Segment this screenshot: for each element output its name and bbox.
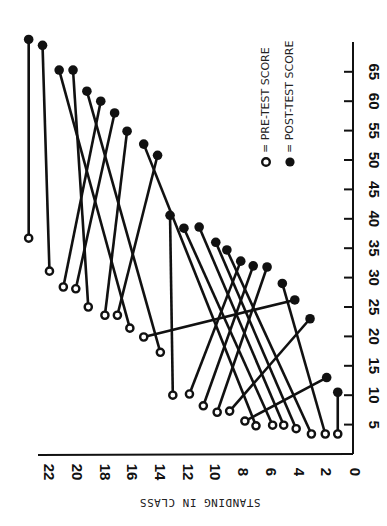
- score-tick-label: 10: [366, 387, 383, 404]
- post-test-marker: [24, 35, 34, 45]
- pair-connector: [144, 144, 256, 426]
- legend: = PRE-TEST SCORE= POST-TEST SCORE: [259, 41, 296, 167]
- post-test-marker: [222, 245, 232, 255]
- pre-test-marker: [114, 312, 121, 319]
- pre-test-marker: [322, 430, 329, 437]
- pre-test-marker: [126, 325, 133, 332]
- pre-test-marker: [140, 333, 147, 340]
- standing-tick-label: 12: [180, 464, 197, 481]
- score-tick-label: 65: [366, 63, 383, 80]
- post-test-marker: [82, 86, 92, 96]
- post-test-marker: [194, 222, 204, 232]
- post-test-marker: [333, 387, 343, 397]
- post-test-marker: [96, 96, 106, 106]
- standing-tick-label: 22: [41, 464, 58, 481]
- pair-connector: [184, 228, 273, 425]
- score-tick-label: 30: [366, 269, 383, 286]
- score-tick-label: 20: [366, 328, 383, 345]
- standing-tick-label: 18: [97, 464, 114, 481]
- pre-test-marker: [72, 285, 79, 292]
- pre-test-marker: [85, 303, 92, 310]
- pre-test-marker: [25, 235, 32, 242]
- pre-test-marker: [186, 390, 193, 397]
- pre-test-marker: [46, 268, 53, 275]
- post-test-marker: [322, 373, 332, 383]
- post-test-marker: [54, 65, 64, 75]
- pre-test-marker: [226, 407, 233, 414]
- score-tick-label: 5: [366, 420, 383, 428]
- pair-connector: [117, 155, 157, 315]
- post-test-marker: [153, 150, 163, 160]
- post-test-marker: [262, 262, 272, 272]
- standing-axis-line: [38, 454, 353, 455]
- post-test-marker: [68, 65, 78, 75]
- origin-label: 0: [347, 468, 364, 476]
- pre-post-score-chart: 5101520253035404550556065024681012141618…: [0, 0, 387, 526]
- pre-test-marker: [214, 409, 221, 416]
- axes: 5101520253035404550556065024681012141618…: [38, 42, 383, 509]
- post-test-marker: [165, 210, 175, 220]
- standing-tick-label: 2: [318, 468, 335, 476]
- standing-tick-label: 10: [207, 464, 224, 481]
- pre-test-marker: [252, 422, 259, 429]
- pair-connector: [170, 215, 173, 395]
- score-tick-label: 25: [366, 299, 383, 316]
- pair-connector: [43, 45, 50, 271]
- pre-test-marker: [101, 312, 108, 319]
- score-tick-label: 50: [366, 152, 383, 169]
- post-test-marker: [211, 238, 221, 248]
- pre-test-marker: [308, 430, 315, 437]
- legend-post-test-label: = POST-TEST SCORE: [283, 41, 296, 153]
- standing-tick-label: 20: [69, 464, 86, 481]
- score-tick-label: 60: [366, 93, 383, 110]
- post-test-marker: [305, 314, 315, 324]
- legend-pre-test-icon: [262, 158, 270, 166]
- pre-test-marker: [269, 422, 276, 429]
- post-test-marker: [278, 279, 288, 289]
- standing-tick-label: 6: [263, 468, 280, 476]
- score-tick-label: 15: [366, 357, 383, 374]
- post-test-marker: [122, 126, 132, 136]
- pre-test-marker: [169, 392, 176, 399]
- legend-post-test-icon: [285, 157, 294, 166]
- standing-tick-label: 4: [291, 468, 308, 477]
- pre-test-marker: [157, 349, 164, 356]
- pre-test-marker: [293, 425, 300, 432]
- post-test-marker: [179, 223, 189, 233]
- post-test-marker: [248, 261, 258, 271]
- post-test-marker: [290, 295, 300, 305]
- standing-tick-label: 14: [152, 464, 169, 481]
- legend-pre-test-label: = PRE-TEST SCORE: [259, 47, 272, 153]
- pre-test-marker: [200, 402, 207, 409]
- post-test-marker: [110, 108, 120, 118]
- standing-tick-label: 16: [124, 464, 141, 481]
- pre-test-marker: [334, 430, 341, 437]
- standing-tick-label: 8: [235, 468, 252, 476]
- score-tick-label: 35: [366, 240, 383, 257]
- pre-test-marker: [241, 417, 248, 424]
- post-test-marker: [139, 139, 149, 149]
- standing-axis-title: STANDING IN CLASS: [139, 496, 260, 509]
- score-tick-label: 55: [366, 122, 383, 139]
- score-tick-label: 45: [366, 181, 383, 198]
- pre-test-marker: [280, 422, 287, 429]
- post-test-marker: [38, 41, 48, 51]
- score-tick-label: 40: [366, 210, 383, 227]
- post-test-marker: [236, 256, 246, 266]
- pre-test-marker: [60, 283, 67, 290]
